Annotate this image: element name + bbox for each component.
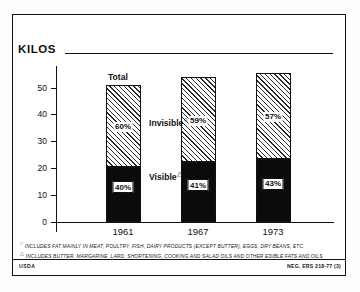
bar-1973: 57%43% — [256, 56, 291, 222]
y-tick-mark — [51, 88, 56, 89]
bar-label-visible-pct: 41% — [187, 179, 208, 191]
negative-number-label: NEG. ERS 218-77 (3) — [287, 263, 341, 269]
y-tick-mark — [51, 114, 56, 115]
agency-label: USDA — [19, 263, 35, 269]
figure-usda-fat-consumption-chart: KILOS 01020304050 60%40%59%41%57%43% 196… — [0, 0, 360, 292]
bar-segment-invisible: 60% — [106, 85, 141, 167]
footnote-marker-visible: △ — [177, 170, 182, 177]
bar-segment-invisible: 57% — [256, 73, 291, 159]
y-tick-label: 30 — [25, 137, 47, 145]
bar-segment-visible: 41% — [181, 162, 216, 222]
y-axis-unit-title: KILOS — [18, 42, 56, 56]
y-tick-label: 50 — [25, 84, 47, 92]
bar-label-invisible-pct: 59% — [188, 116, 207, 126]
bar-label-visible-pct: 40% — [112, 181, 133, 193]
y-tick-label: 0 — [25, 218, 47, 226]
series-label-visible: Visible△ — [149, 170, 182, 182]
footnote-marker: △ — [20, 250, 24, 256]
footnote-marker-invisible: ○ — [183, 116, 187, 123]
bar-label-invisible-pct: 60% — [113, 122, 132, 132]
y-tick-mark — [51, 168, 56, 169]
y-tick-mark — [51, 195, 56, 196]
bar-1967: 59%41% — [181, 56, 216, 222]
footnote-1: ○ INCLUDES FAT MAINLY IN MEAT, POULTRY, … — [20, 240, 340, 250]
total-annotation: Total — [108, 72, 128, 82]
y-tick-label: 10 — [25, 191, 47, 199]
y-tick-label: 40 — [25, 110, 47, 118]
credit-rule — [13, 259, 345, 260]
footnote-block: ○ INCLUDES FAT MAINLY IN MEAT, POULTRY, … — [20, 240, 340, 260]
x-tick-label-1973: 1973 — [243, 226, 303, 237]
x-tick-label-1961: 1961 — [93, 226, 153, 237]
y-tick-mark — [51, 141, 56, 142]
bar-segment-visible: 40% — [106, 167, 141, 222]
y-axis-line — [56, 66, 57, 232]
plot-area: 01020304050 60%40%59%41%57%43% 196119671… — [18, 56, 334, 236]
bar-segment-visible: 43% — [256, 159, 291, 222]
y-tick-label: 20 — [25, 164, 47, 172]
series-label-invisible: Invisible○ — [149, 116, 188, 128]
footnote-marker: ○ — [20, 240, 23, 246]
bar-label-invisible-pct: 57% — [263, 112, 282, 122]
bar-label-visible-pct: 43% — [262, 178, 283, 190]
x-axis-line — [56, 222, 334, 223]
title-rule — [65, 53, 333, 54]
x-tick-label-1967: 1967 — [168, 226, 228, 237]
y-tick-mark — [51, 222, 56, 223]
